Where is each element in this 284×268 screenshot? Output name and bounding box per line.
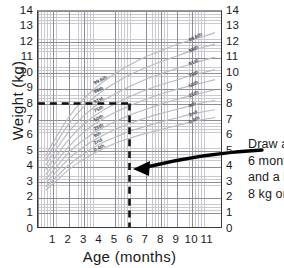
y-tick-right-13: 13 (226, 20, 250, 32)
y-tick-left-14: 14 (11, 5, 33, 17)
y-tick-left-13: 13 (11, 20, 33, 32)
guide-lines (38, 104, 130, 227)
callout-text-line-4: 8 kg or (248, 186, 284, 203)
y-tick-right-6: 6 (226, 129, 250, 141)
y-tick-left-4: 4 (11, 160, 33, 172)
y-tick-right-12: 12 (226, 36, 250, 48)
callout-text-line-3: and a l (248, 169, 284, 186)
y-tick-right-1: 1 (226, 207, 250, 219)
callout-text: Draw a 6 mont and a l 8 kg or (248, 136, 284, 202)
y-tick-right-9: 9 (226, 82, 250, 94)
y-tick-left-2: 2 (11, 191, 33, 203)
growth-chart: 99.6th98th91st75th50th25th9th2nd0.4th 99… (0, 0, 284, 268)
callout-text-line-1: Draw a (248, 136, 284, 153)
y-tick-right-14: 14 (226, 5, 250, 17)
y-axis-right-ticks: 14131211109876543210 (226, 0, 252, 268)
y-tick-right-7: 7 (226, 114, 250, 126)
y-tick-left-0: 0 (11, 223, 33, 235)
y-tick-left-1: 1 (11, 207, 33, 219)
y-tick-right-2: 2 (226, 191, 250, 203)
y-tick-right-8: 8 (226, 98, 250, 110)
y-axis-title: Weight (kg) (9, 46, 26, 156)
y-tick-right-3: 3 (226, 176, 250, 188)
y-tick-left-3: 3 (11, 176, 33, 188)
y-tick-right-0: 0 (226, 223, 250, 235)
y-tick-right-4: 4 (226, 160, 250, 172)
x-tick-11: 11 (198, 234, 216, 246)
callout-text-line-2: 6 mont (248, 153, 284, 170)
y-tick-right-5: 5 (226, 145, 250, 157)
x-axis-title: Age (months) (37, 248, 222, 265)
y-tick-right-11: 11 (226, 51, 250, 63)
plot-area: 99.6th98th91st75th50th25th9th2nd0.4th 99… (37, 10, 222, 228)
y-tick-right-10: 10 (226, 67, 250, 79)
